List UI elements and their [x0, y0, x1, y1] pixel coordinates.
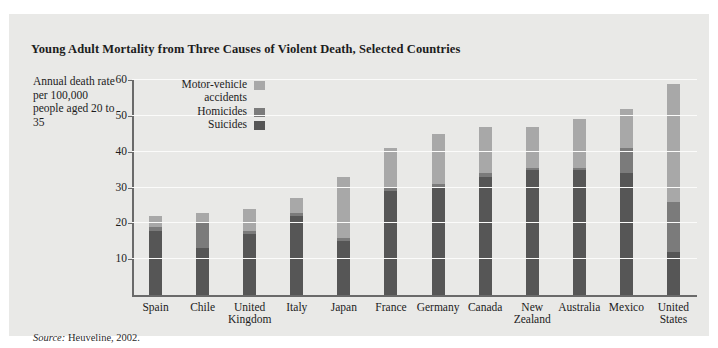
bar-segment[interactable]	[196, 223, 209, 248]
bar-stack[interactable]	[526, 127, 539, 295]
bar-segment[interactable]	[526, 170, 539, 295]
bar-stack[interactable]	[337, 177, 350, 295]
source-note: Source: Heuveline, 2002.	[33, 332, 140, 343]
bar-segment[interactable]	[526, 127, 539, 168]
bar-stack[interactable]	[620, 109, 633, 295]
gridline	[132, 79, 697, 80]
plot-area	[132, 80, 697, 295]
bar-stack[interactable]	[479, 127, 492, 295]
y-tick-mark	[128, 80, 133, 81]
bar-segment[interactable]	[149, 231, 162, 296]
page-title: Young Adult Mortality from Three Causes …	[31, 42, 460, 57]
bar-segment[interactable]	[243, 234, 256, 295]
bar-segment[interactable]	[290, 198, 303, 212]
y-tick-mark	[128, 188, 133, 189]
source-label: Source:	[33, 332, 65, 343]
y-tick-mark	[128, 116, 133, 117]
bar-stack[interactable]	[196, 213, 209, 295]
gridline	[132, 187, 697, 188]
bar-segment[interactable]	[573, 119, 586, 167]
y-tick-label: 30	[103, 181, 127, 193]
bar-segment[interactable]	[290, 216, 303, 295]
y-tick-mark	[128, 223, 133, 224]
gridline	[132, 115, 697, 116]
bar-segment[interactable]	[196, 248, 209, 295]
bar-group	[132, 80, 697, 295]
x-tick-label: United States	[643, 301, 704, 326]
bar-segment[interactable]	[432, 134, 445, 184]
y-tick-label: 10	[103, 252, 127, 264]
bar-stack[interactable]	[290, 198, 303, 295]
figure-panel: Young Adult Mortality from Three Causes …	[9, 14, 709, 336]
gridline	[132, 151, 697, 152]
bar-segment[interactable]	[573, 170, 586, 295]
bar-segment[interactable]	[243, 209, 256, 231]
bar-segment[interactable]	[479, 177, 492, 295]
y-tick-mark	[128, 152, 133, 153]
x-axis-line	[132, 295, 697, 297]
bar-segment[interactable]	[667, 202, 680, 252]
bar-segment[interactable]	[620, 148, 633, 173]
bar-segment[interactable]	[667, 84, 680, 202]
y-tick-label: 50	[103, 109, 127, 121]
bar-segment[interactable]	[432, 188, 445, 296]
y-tick-label: 20	[103, 216, 127, 228]
bar-segment[interactable]	[384, 148, 397, 187]
source-value: Heuveline, 2002.	[68, 332, 140, 343]
bar-segment[interactable]	[337, 241, 350, 295]
bar-segment[interactable]	[620, 173, 633, 295]
bar-stack[interactable]	[573, 119, 586, 295]
gridline	[132, 222, 697, 223]
y-tick-label: 60	[103, 73, 127, 85]
y-tick-mark	[128, 259, 133, 260]
y-tick-label: 40	[103, 145, 127, 157]
bar-stack[interactable]	[149, 216, 162, 295]
gridline	[132, 258, 697, 259]
bar-segment[interactable]	[384, 191, 397, 295]
bar-stack[interactable]	[432, 134, 445, 295]
